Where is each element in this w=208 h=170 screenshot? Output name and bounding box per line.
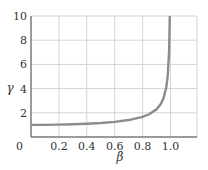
- y-tick-label: 2: [20, 107, 27, 120]
- grid-lines: [31, 16, 197, 137]
- y-tick-label: 6: [20, 58, 27, 71]
- x-tick-label: 0.4: [78, 140, 96, 153]
- x-axis-label: β: [116, 150, 124, 164]
- x-tick-label: 0.2: [50, 140, 68, 153]
- y-tick-label: 4: [20, 83, 27, 96]
- x-tick-labels: 0.20.40.60.81.00: [16, 140, 179, 153]
- y-tick-label: 8: [20, 34, 27, 47]
- x-tick-label: 0.8: [134, 140, 152, 153]
- axes: [31, 16, 197, 137]
- x-tick-label: 1.0: [162, 140, 180, 153]
- origin-tick-label: 0: [16, 140, 23, 153]
- gamma-vs-beta-chart: 0.20.40.60.81.00 246810 β γ: [0, 0, 208, 170]
- y-axis-label: γ: [6, 81, 14, 95]
- gamma-curve: [31, 16, 170, 125]
- y-tick-labels: 246810: [13, 10, 27, 120]
- y-tick-label: 10: [13, 10, 27, 23]
